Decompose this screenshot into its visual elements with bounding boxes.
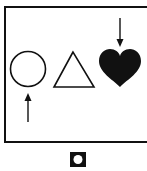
triangle-shape (54, 52, 94, 87)
down-arrow-icon (117, 18, 124, 47)
up-arrow-icon (25, 93, 32, 122)
diagram-canvas (0, 0, 147, 171)
heart-shape (99, 49, 141, 87)
answer-icon (70, 152, 86, 167)
circle-shape (11, 52, 46, 87)
